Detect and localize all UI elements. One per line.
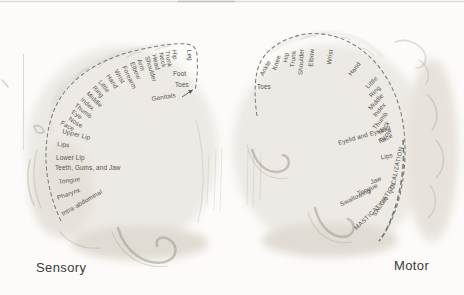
sensory-label-lower-lip: Lower Lip — [56, 154, 85, 162]
motor-label-toes: Toes — [257, 83, 271, 90]
motor-caption: Motor — [394, 258, 430, 273]
sensory-label-toes: Toes — [175, 81, 189, 88]
homunculus-figure: GenitalsToesFootLegHipTrunkNeckHeadShoul… — [0, 0, 464, 295]
sensory-caption: Sensory — [36, 260, 87, 275]
motor-label-elbow: Elbow — [307, 48, 315, 67]
sensory-label-teeth-gums-and-jaw: Teeth, Gums, and Jaw — [55, 164, 121, 171]
sensory-label-foot: Foot — [173, 70, 186, 77]
sensory-label-leg: Leg — [185, 49, 194, 61]
